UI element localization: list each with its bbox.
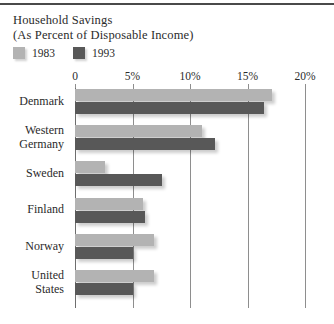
top-rule-divider: [0, 3, 334, 5]
category-label-denmark: Denmark: [19, 95, 64, 109]
bar-1983: [75, 198, 143, 210]
x-tick-label-5%: 5%: [125, 70, 140, 83]
x-tick-label-15%: 15%: [237, 70, 258, 83]
category-label-western-germany: WesternGermany: [19, 124, 64, 151]
gridline: [305, 88, 306, 308]
bar-1993: [75, 138, 215, 150]
category-label-line: Western: [19, 124, 64, 138]
legend-label: 1993: [92, 47, 115, 59]
chart-figure: Household Savings (As Percent of Disposa…: [0, 0, 334, 324]
chart-header: Household Savings (As Percent of Disposa…: [13, 13, 323, 43]
bar-1983: [75, 125, 202, 137]
bar-1993: [75, 283, 133, 295]
bar-1993: [75, 247, 133, 259]
chart-title-line-2: (As Percent of Disposable Income): [13, 28, 323, 43]
bar-group: [75, 234, 305, 259]
category-label-sweden: Sweden: [26, 167, 64, 181]
legend-swatch-icon: [73, 47, 85, 59]
bar-1993: [75, 211, 145, 223]
bar-group: [75, 270, 305, 295]
bar-group: [75, 198, 305, 223]
category-label-line: Germany: [19, 138, 64, 152]
bar-1993: [75, 174, 162, 186]
legend-label: 1983: [32, 47, 55, 59]
category-label-line: United: [31, 269, 64, 283]
category-label-line: Norway: [25, 240, 64, 254]
bar-1993: [75, 102, 264, 114]
chart-legend: 19831993: [13, 47, 115, 59]
bar-group: [75, 161, 305, 186]
bar-1983: [75, 270, 154, 282]
category-label-united-states: UnitedStates: [31, 269, 64, 296]
bar-group: [75, 125, 305, 150]
plot-area: [75, 88, 305, 308]
bar-1983: [75, 234, 154, 246]
category-label-line: States: [31, 283, 64, 297]
x-tick-label-0: 0: [72, 70, 78, 83]
bar-1983: [75, 161, 105, 173]
x-tick-label-10%: 10%: [179, 70, 200, 83]
legend-swatch-icon: [13, 47, 25, 59]
category-label-finland: Finland: [27, 203, 64, 217]
bar-1983: [75, 89, 272, 101]
legend-entry-1983: 1983: [13, 47, 55, 59]
legend-entry-1993: 1993: [73, 47, 115, 59]
x-tick-label-20%: 20%: [294, 70, 315, 83]
bar-group: [75, 89, 305, 114]
x-axis-tick-labels: 05%10%15%20%: [75, 70, 305, 84]
category-axis-labels: DenmarkWesternGermanySwedenFinlandNorway…: [0, 88, 70, 308]
category-label-line: Sweden: [26, 167, 64, 181]
chart-title-line-1: Household Savings: [13, 13, 323, 28]
category-label-line: Denmark: [19, 95, 64, 109]
category-label-line: Finland: [27, 203, 64, 217]
category-label-norway: Norway: [25, 240, 64, 254]
